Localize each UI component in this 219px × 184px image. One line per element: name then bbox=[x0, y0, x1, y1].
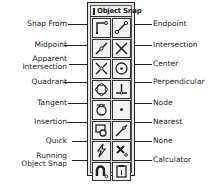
label-calculator: Calculator bbox=[153, 156, 191, 164]
palette-titlebar[interactable]: Object Snap bbox=[91, 6, 131, 17]
node-icon bbox=[114, 102, 129, 117]
calculator-button[interactable] bbox=[112, 162, 131, 182]
label-tangent: Tangent bbox=[37, 99, 67, 107]
intersection-button[interactable] bbox=[112, 39, 131, 59]
palette-title: Object Snap bbox=[97, 7, 142, 16]
label-quick: Quick bbox=[46, 137, 67, 145]
apparent-intersection-icon bbox=[94, 61, 109, 76]
leader-line bbox=[68, 24, 88, 25]
label-center: Center bbox=[153, 60, 178, 68]
perpendicular-icon bbox=[114, 82, 129, 97]
leader-line bbox=[135, 141, 152, 142]
leader-line bbox=[135, 160, 152, 161]
midpoint-icon bbox=[94, 41, 109, 56]
snap-from-icon bbox=[94, 20, 109, 35]
label-midpoint: Midpoint bbox=[35, 41, 67, 49]
object-snap-palette[interactable]: Object Snap bbox=[87, 2, 135, 176]
quadrant-icon bbox=[94, 82, 109, 97]
center-icon bbox=[114, 61, 129, 76]
perpendicular-button[interactable] bbox=[112, 80, 131, 100]
running-object-snap-button[interactable] bbox=[92, 162, 111, 182]
insertion-button[interactable] bbox=[92, 121, 111, 141]
label-node: Node bbox=[153, 99, 173, 107]
label-apparent-2: Intersection bbox=[22, 63, 67, 71]
leader-line bbox=[72, 141, 88, 142]
leader-line bbox=[69, 64, 88, 65]
insertion-icon bbox=[94, 123, 109, 138]
palette-body: Object Snap bbox=[90, 5, 132, 173]
snap-button-grid bbox=[92, 18, 131, 181]
tangent-icon bbox=[94, 102, 109, 117]
endpoint-button[interactable] bbox=[112, 18, 131, 38]
leader-line bbox=[135, 122, 152, 123]
leader-line bbox=[135, 45, 152, 46]
snap-from-button[interactable] bbox=[92, 18, 111, 38]
nearest-icon bbox=[114, 123, 129, 138]
close-box-icon[interactable] bbox=[93, 8, 95, 15]
label-running-2: Object Snap bbox=[21, 160, 67, 168]
leader-line bbox=[67, 122, 88, 123]
quadrant-button[interactable] bbox=[92, 80, 111, 100]
label-intersection: Intersection bbox=[153, 41, 198, 49]
node-button[interactable] bbox=[112, 100, 131, 120]
quick-button[interactable] bbox=[92, 141, 111, 161]
label-insertion: Insertion bbox=[34, 118, 67, 126]
label-perpendicular: Perpendicular bbox=[153, 78, 205, 86]
leader-line bbox=[64, 45, 88, 46]
none-button[interactable] bbox=[112, 141, 131, 161]
leader-line bbox=[68, 103, 88, 104]
label-nearest: Nearest bbox=[153, 118, 182, 126]
label-none: None bbox=[153, 137, 173, 145]
leader-line bbox=[135, 24, 152, 25]
calculator-icon bbox=[114, 164, 129, 179]
label-snap-from: Snap From bbox=[27, 20, 67, 28]
center-button[interactable] bbox=[112, 59, 131, 79]
leader-line bbox=[135, 82, 152, 83]
nearest-button[interactable] bbox=[112, 121, 131, 141]
apparent-intersection-button[interactable] bbox=[92, 59, 111, 79]
label-quadrant: Quadrant bbox=[32, 78, 67, 86]
intersection-icon bbox=[114, 41, 129, 56]
leader-line bbox=[64, 82, 88, 83]
running-object-snap-icon bbox=[94, 164, 109, 179]
endpoint-icon bbox=[114, 20, 129, 35]
midpoint-button[interactable] bbox=[92, 39, 111, 59]
quick-icon bbox=[94, 143, 109, 158]
leader-line bbox=[72, 160, 88, 161]
none-icon bbox=[114, 143, 129, 158]
label-endpoint: Endpoint bbox=[153, 20, 186, 28]
leader-line bbox=[135, 103, 152, 104]
leader-line bbox=[135, 64, 152, 65]
tangent-button[interactable] bbox=[92, 100, 111, 120]
